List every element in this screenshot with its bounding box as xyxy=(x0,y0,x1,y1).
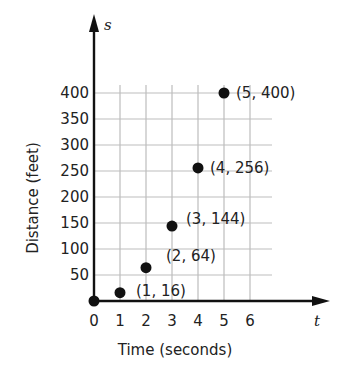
x-tick-label: 0 xyxy=(89,312,99,330)
y-axis-symbol: s xyxy=(104,16,112,34)
data-point xyxy=(115,287,126,298)
y-tick-label: 250 xyxy=(60,162,89,180)
data-point xyxy=(167,221,178,232)
x-tick-label: 6 xyxy=(245,312,255,330)
data-point-label: (4, 256) xyxy=(210,159,269,177)
x-tick-labels: 0123456 xyxy=(89,312,255,330)
y-axis-arrow-icon xyxy=(89,14,99,32)
x-tick-label: 1 xyxy=(115,312,125,330)
x-axis-symbol: t xyxy=(314,312,321,330)
data-point-label: (1, 16) xyxy=(136,282,186,300)
y-tick-label: 200 xyxy=(60,188,89,206)
x-tick-label: 3 xyxy=(167,312,177,330)
x-axis-arrow-icon xyxy=(312,296,330,306)
data-point-label: (5, 400) xyxy=(236,84,295,102)
data-point xyxy=(89,296,100,307)
y-tick-label: 150 xyxy=(60,214,89,232)
x-tick-label: 4 xyxy=(193,312,203,330)
y-axis-label: Distance (feet) xyxy=(24,142,42,254)
x-tick-label: 5 xyxy=(219,312,229,330)
y-tick-label: 50 xyxy=(70,266,89,284)
x-tick-label: 2 xyxy=(141,312,151,330)
data-point xyxy=(193,162,204,173)
y-tick-label: 350 xyxy=(60,110,89,128)
distance-time-chart: t s 0123456 50100150200250300350400 Time… xyxy=(0,0,343,373)
y-tick-labels: 50100150200250300350400 xyxy=(60,84,89,284)
y-tick-label: 100 xyxy=(60,240,89,258)
data-point xyxy=(219,88,230,99)
y-tick-label: 400 xyxy=(60,84,89,102)
y-tick-label: 300 xyxy=(60,136,89,154)
data-point xyxy=(141,262,152,273)
x-axis-label: Time (seconds) xyxy=(117,341,233,359)
data-point-label: (2, 64) xyxy=(166,247,216,265)
data-point-label: (3, 144) xyxy=(186,210,245,228)
grid-lines xyxy=(94,85,272,301)
